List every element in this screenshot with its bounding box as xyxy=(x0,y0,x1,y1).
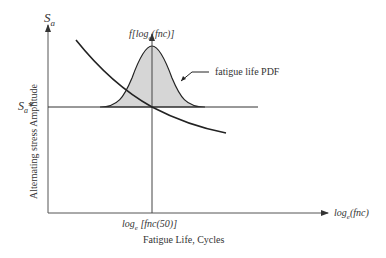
annotation-label: fatigue life PDF xyxy=(215,66,279,77)
fatigue-diagram xyxy=(0,0,386,258)
annotation-leader xyxy=(181,72,209,81)
threshold-label: Sa* xyxy=(18,99,34,115)
x-axis-label: Fatigue Life, Cycles xyxy=(143,234,224,245)
x-axis-symbol: loge(fnc) xyxy=(334,207,369,221)
median-tick-label: loge [fnc(50)] xyxy=(122,218,177,232)
pdf-axis-label: f[loge(fnc)] xyxy=(129,28,174,42)
y-axis-label: Alternating stress Amplitude xyxy=(28,67,39,217)
y-axis-symbol: Sa xyxy=(44,10,55,28)
